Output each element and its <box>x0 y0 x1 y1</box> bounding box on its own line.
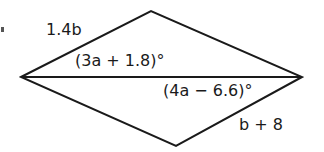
angle-label-right-lower: (4a − 6.6)° <box>163 83 253 99</box>
bullet-mark <box>1 27 4 32</box>
side-label-bottom-right: b + 8 <box>239 117 283 133</box>
side-label-top-left: 1.4b <box>46 22 82 38</box>
rhombus-diagram: 1.4b (3a + 1.8)° (4a − 6.6)° b + 8 <box>0 0 324 152</box>
angle-label-left-upper: (3a + 1.8)° <box>75 53 165 69</box>
